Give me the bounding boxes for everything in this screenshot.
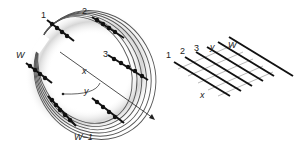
label-row-1: 1 (41, 10, 46, 20)
rolled-lattice: 1 2 3 W W−1 x y (2, 0, 179, 149)
flat-lattice: 1 2 3 y W x (166, 37, 293, 100)
diagram-canvas: 1 2 3 W W−1 x y 1 2 3 y W x (0, 0, 308, 149)
label-axis-x: x (81, 66, 87, 76)
label-axis-y: y (83, 86, 89, 96)
label-col-2: 2 (180, 46, 185, 56)
label-col-1: 1 (166, 50, 171, 60)
label-row-w: W (16, 50, 26, 60)
label-col-y: y (209, 42, 215, 52)
label-row-3: 3 (103, 49, 108, 59)
label-axis-x-flat: x (199, 90, 205, 100)
label-col-3: 3 (194, 43, 199, 53)
label-row-w-minus-1: W−1 (74, 132, 93, 142)
halo (2, 0, 178, 149)
label-row-2: 2 (82, 6, 87, 16)
